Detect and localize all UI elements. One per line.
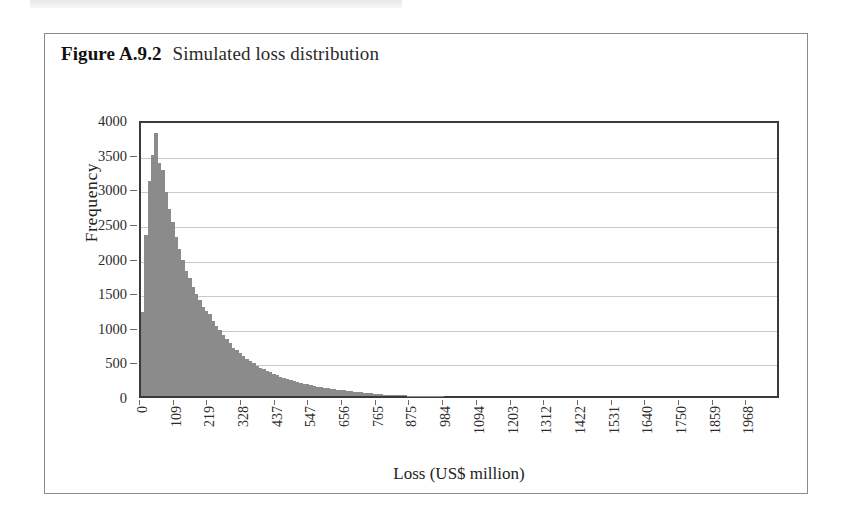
x-tick-label: 547: [303, 406, 319, 464]
x-tick-mark: [644, 400, 645, 405]
y-axis-ticks: 05001000150020002500300035004000: [45, 121, 137, 398]
x-tick-mark: [678, 400, 679, 405]
x-tick-mark: [240, 400, 241, 405]
y-tick-label: 500: [105, 355, 127, 372]
y-tick-mark: [130, 156, 137, 157]
figure-caption: Figure A.9.2Simulated loss distribution: [61, 43, 379, 65]
y-tick-mark: [130, 190, 137, 191]
figure-title: Simulated loss distribution: [173, 43, 379, 64]
x-tick-label: 1312: [539, 406, 555, 464]
x-tick-mark: [206, 400, 207, 405]
x-tick-label: 765: [371, 406, 387, 464]
x-tick-mark: [745, 400, 746, 405]
figure-number: Figure A.9.2: [61, 43, 162, 64]
y-tick-label: 3000: [98, 182, 127, 199]
x-tick-mark: [543, 400, 544, 405]
x-tick-mark: [173, 400, 174, 405]
x-axis-title: Loss (US$ million): [139, 464, 779, 484]
x-tick-mark: [341, 400, 342, 405]
histogram-bar: [441, 396, 444, 397]
y-tick-label: 3500: [98, 147, 127, 164]
y-tick-label: 1500: [98, 286, 127, 303]
x-tick-label: 219: [202, 406, 218, 464]
y-tick-mark: [130, 260, 137, 261]
x-tick-label: 0: [135, 406, 151, 464]
x-tick-label: 875: [404, 406, 420, 464]
x-tick-label: 109: [169, 406, 185, 464]
y-tick-mark: [130, 225, 137, 226]
x-tick-mark: [476, 400, 477, 405]
plot-area: [139, 121, 779, 398]
x-tick-mark: [442, 400, 443, 405]
x-tick-mark: [611, 400, 612, 405]
y-tick-mark: [130, 329, 137, 330]
x-tick-mark: [510, 400, 511, 405]
x-tick-mark: [712, 400, 713, 405]
x-tick-label: 1859: [708, 406, 724, 464]
y-tick-label: 2500: [98, 216, 127, 233]
x-tick-mark: [408, 400, 409, 405]
figure-panel: Figure A.9.2Simulated loss distribution …: [44, 33, 808, 494]
y-tick-mark: [130, 294, 137, 295]
x-tick-label: 1422: [573, 406, 589, 464]
x-tick-mark: [577, 400, 578, 405]
y-tick-label: 4000: [98, 113, 127, 130]
histogram-bars: [141, 123, 777, 396]
x-tick-label: 1640: [640, 406, 656, 464]
y-tick-label: 0: [120, 390, 127, 407]
y-tick-mark: [130, 363, 137, 364]
x-tick-label: 328: [236, 406, 252, 464]
scan-smudge-band: [30, 0, 402, 8]
x-tick-mark: [274, 400, 275, 405]
y-tick-label: 1000: [98, 320, 127, 337]
x-tick-label: 656: [337, 406, 353, 464]
x-tick-mark: [375, 400, 376, 405]
x-tick-label: 984: [438, 406, 454, 464]
x-tick-mark: [307, 400, 308, 405]
y-tick-label: 2000: [98, 251, 127, 268]
x-tick-label: 1531: [607, 406, 623, 464]
x-tick-mark: [139, 400, 140, 405]
x-tick-label: 437: [270, 406, 286, 464]
x-tick-label: 1203: [506, 406, 522, 464]
x-tick-label: 1750: [674, 406, 690, 464]
x-tick-label: 1968: [741, 406, 757, 464]
x-tick-label: 1094: [472, 406, 488, 464]
